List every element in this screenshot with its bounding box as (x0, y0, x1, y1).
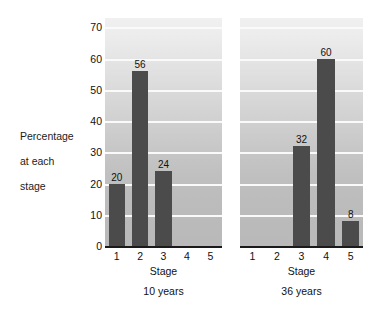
plot-area (105, 18, 222, 246)
x-axis-ticks: 12345 (240, 251, 363, 265)
y-tick-label: 20 (78, 178, 102, 189)
x-tick-label: 4 (184, 251, 190, 262)
x-tick-label: 3 (161, 251, 167, 262)
x-tick-label: 2 (137, 251, 143, 262)
gridline (105, 59, 222, 61)
bar (293, 146, 310, 246)
y-axis-title-line-2: at each (20, 155, 54, 167)
y-tick-label: 60 (78, 53, 102, 64)
y-axis-title-line-3: stage (20, 180, 46, 192)
y-tick-label: 40 (78, 116, 102, 127)
bar (109, 184, 125, 246)
y-axis-ticks: 010203040506070 (78, 18, 102, 246)
x-axis-line (105, 246, 222, 248)
x-axis-title: Stage (240, 266, 363, 277)
gridline (240, 59, 363, 61)
plot-area (240, 18, 363, 246)
x-tick-label: 1 (249, 251, 255, 262)
bar (342, 221, 359, 246)
gridline (240, 90, 363, 92)
y-tick-label: 70 (78, 22, 102, 33)
bar (317, 59, 334, 246)
bar (155, 171, 171, 246)
bar-value-label: 24 (158, 160, 169, 170)
gridline (105, 152, 222, 154)
y-tick-label: 10 (78, 210, 102, 221)
gridline (240, 27, 363, 29)
bar-value-label: 56 (135, 60, 146, 70)
y-tick-label: 30 (78, 147, 102, 158)
x-tick-label: 5 (207, 251, 213, 262)
y-axis-title-line-1: Percentage (20, 130, 74, 142)
x-tick-label: 4 (323, 251, 329, 262)
bar-value-label: 32 (296, 135, 307, 145)
x-tick-label: 2 (274, 251, 280, 262)
chart-panel: 3260812345Stage36 years (240, 18, 363, 246)
gridline (105, 27, 222, 29)
x-tick-label: 5 (348, 251, 354, 262)
x-axis-line (240, 246, 363, 248)
gridline (105, 121, 222, 123)
gridline (240, 121, 363, 123)
y-tick-label: 50 (78, 85, 102, 96)
panel-caption: 10 years (105, 286, 222, 297)
bar-value-label: 20 (111, 173, 122, 183)
gridline (105, 90, 222, 92)
bar-value-label: 8 (348, 210, 354, 220)
x-axis-title: Stage (105, 266, 222, 277)
chart-figure: Percentage at each stage 010203040506070… (0, 0, 389, 312)
x-tick-label: 1 (114, 251, 120, 262)
chart-panel: 20562412345Stage10 years (105, 18, 222, 246)
x-tick-label: 3 (299, 251, 305, 262)
bar (132, 71, 148, 246)
y-tick-label: 0 (78, 241, 102, 252)
panel-caption: 36 years (240, 286, 363, 297)
bar-value-label: 60 (321, 48, 332, 58)
x-axis-ticks: 12345 (105, 251, 222, 265)
